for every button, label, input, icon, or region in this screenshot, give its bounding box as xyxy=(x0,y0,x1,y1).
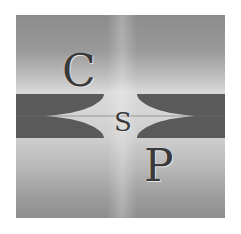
letter-p: P xyxy=(144,144,174,188)
csp-logo: C S P xyxy=(16,15,225,218)
letter-s: S xyxy=(114,109,132,135)
letter-c: C xyxy=(62,49,96,93)
